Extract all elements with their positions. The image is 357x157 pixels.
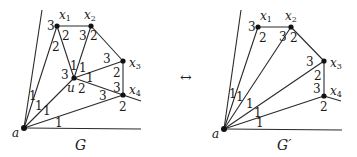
node-u — [71, 75, 76, 80]
angle-label: 3 — [103, 52, 111, 66]
diagram-svg: ax1x2x3x4u3223211312323321111G ax1x2x3x4… — [0, 0, 357, 157]
angle-label: 2 — [62, 29, 70, 43]
node-x3 — [120, 58, 125, 63]
node-label-x2: x2 — [84, 8, 96, 23]
node-label-a: a — [12, 126, 19, 140]
angle-label: 3 — [61, 68, 69, 82]
angle-label: 3 — [113, 81, 121, 95]
node-label-x3: x3 — [129, 56, 141, 71]
angle-label: 3 — [47, 19, 55, 33]
node-x4 — [120, 92, 125, 97]
node-x2 — [288, 24, 293, 29]
angle-label: 2 — [113, 66, 121, 80]
angle-label: 3 — [279, 30, 287, 44]
node-label-x4: x4 — [129, 83, 141, 98]
angle-label: 1 — [43, 104, 51, 118]
node-label-u: u — [67, 81, 75, 95]
edge — [224, 10, 241, 129]
angle-label: 3 — [99, 89, 107, 103]
edge — [224, 129, 342, 130]
angle-label: 2 — [78, 82, 86, 96]
node-label-x1: x1 — [59, 8, 71, 23]
angle-label: 1 — [70, 59, 78, 73]
graph-caption: G — [75, 137, 86, 153]
node-label-a: a — [212, 127, 219, 141]
equivalence-arrow: ↔ — [180, 69, 192, 85]
angle-label: 2 — [314, 69, 322, 83]
edge — [24, 128, 141, 129]
angle-label: 2 — [320, 100, 328, 114]
angle-label: 3 — [79, 29, 87, 43]
angle-label: 1 — [256, 116, 264, 130]
node-a — [221, 126, 227, 132]
node-x1 — [255, 24, 260, 29]
angle-label: 1 — [246, 97, 254, 111]
angle-label: 1 — [35, 99, 43, 113]
figure-canvas: ax1x2x3x4u3223211312323321111G ax1x2x3x4… — [0, 0, 357, 157]
angle-label: 1 — [86, 71, 94, 85]
angle-label: 3 — [306, 55, 314, 69]
angle-label: 2 — [290, 31, 298, 45]
graph-g-prime: ax1x2x3x43232323211111G′ — [212, 9, 342, 153]
node-a — [21, 125, 27, 131]
angle-label: 3 — [248, 20, 256, 34]
node-label-x1: x1 — [260, 9, 272, 24]
angle-label: 3 — [313, 82, 321, 96]
angle-label: 1 — [236, 90, 244, 104]
node-x1 — [54, 23, 59, 28]
graph-g: ax1x2x3x4u3223211312323321111G — [12, 8, 141, 153]
node-label-x4: x4 — [330, 84, 342, 99]
graph-caption: G′ — [277, 137, 292, 153]
angle-label: 2 — [52, 40, 60, 54]
node-x2 — [88, 23, 93, 28]
edge — [224, 27, 258, 129]
node-x4 — [321, 93, 326, 98]
node-label-x3: x3 — [330, 56, 342, 71]
angle-label: 2 — [119, 100, 127, 114]
node-label-x2: x2 — [285, 9, 297, 24]
node-x3 — [321, 58, 326, 63]
angle-label: 2 — [90, 29, 98, 43]
angle-label: 2 — [259, 31, 267, 45]
angle-label: 1 — [55, 116, 63, 130]
